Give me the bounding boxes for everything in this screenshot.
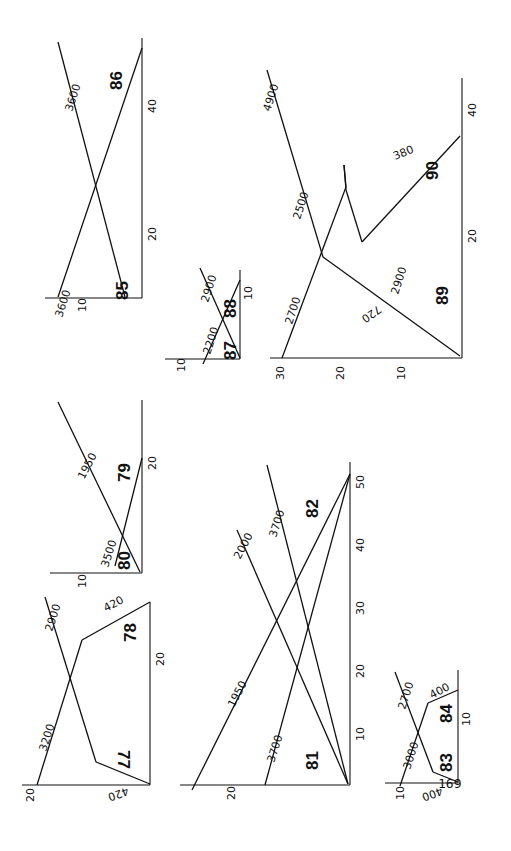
diagram-number: 77: [114, 750, 133, 769]
diagram-number: 90: [423, 161, 442, 180]
line: [37, 640, 82, 785]
line-label: 2900: [42, 602, 63, 633]
diagram-number: 86: [107, 71, 126, 90]
line-label: 380: [391, 143, 415, 163]
tick: 20: [146, 227, 159, 241]
tick: 10: [175, 358, 188, 372]
diagram-81-82: 50 40 30 20 10 20 1950 2000 3700 3700 82…: [180, 462, 367, 800]
line-label: 420: [106, 784, 130, 803]
page-drawing: 40 20 10 3600 3600 86 85 10 10 2200 2900…: [0, 0, 511, 851]
diagram-number: 82: [303, 499, 322, 518]
tick: 10: [76, 574, 89, 588]
diagram-85-86: 40 20 10 3600 3600 86 85: [45, 38, 159, 319]
line-label: 3200: [36, 722, 57, 753]
tick: 10: [242, 286, 255, 300]
line-label: 2000: [231, 531, 256, 562]
line-label: 720: [359, 303, 384, 326]
tick: 20: [334, 366, 347, 380]
diagram-number: 87: [221, 341, 240, 360]
tick: 10: [76, 298, 89, 312]
tick: 10: [394, 786, 407, 800]
line: [237, 530, 348, 784]
tick: 30: [274, 366, 287, 380]
line: [323, 257, 460, 356]
tick: 50: [354, 475, 367, 489]
line-label: 1950: [225, 679, 250, 710]
tick: 30: [354, 601, 367, 615]
line-label: 3600: [52, 288, 73, 319]
tick: 10: [354, 727, 367, 741]
line-label: 3600: [62, 82, 83, 113]
diagram-number: 80: [115, 551, 134, 570]
tick: 40: [146, 99, 159, 113]
diagram-87-88: 10 10 2200 2900 88 87: [165, 268, 255, 372]
diagram-number: 85: [113, 281, 132, 300]
tick: 20: [225, 786, 238, 800]
line-label: 3700: [264, 733, 285, 764]
line-label: 1950: [75, 451, 100, 482]
diagram-77-78: 20 20 3200 2900 420 420 78 77: [22, 593, 167, 803]
tick: 20: [24, 788, 37, 802]
tick: 20: [146, 456, 159, 470]
tick: 20: [354, 664, 367, 678]
tick: 40: [354, 538, 367, 552]
line-label: 2500: [290, 190, 311, 221]
diagram-89-90: 40 20 30 20 10 2700 720 2900 2500 4900 3…: [260, 70, 479, 380]
line-label: 2900: [388, 265, 409, 296]
diagram-79-80: 20 10 1950 3500 79 80: [50, 400, 159, 588]
line: [346, 190, 362, 242]
diagram-number: 78: [121, 623, 140, 642]
diagram-number: 81: [303, 751, 322, 770]
line-label: 3000: [400, 740, 421, 771]
tick: 20: [154, 652, 167, 666]
diagram-number: 84: [437, 704, 456, 723]
tick: 10: [395, 366, 408, 380]
page-number: 169: [438, 776, 461, 791]
line-label: 420: [101, 593, 126, 614]
diagram-number: 79: [115, 463, 134, 482]
tick: 10: [460, 712, 473, 726]
diagram-number: 89: [433, 286, 452, 305]
tick: 20: [466, 229, 479, 243]
line-label: 2700: [395, 680, 416, 711]
tick: 40: [466, 103, 479, 117]
line: [58, 402, 140, 572]
line-label: 2900: [198, 273, 219, 304]
diagram-number: 83: [437, 753, 456, 772]
diagram-number: 88: [221, 299, 240, 318]
line-label: 2200: [200, 325, 221, 356]
